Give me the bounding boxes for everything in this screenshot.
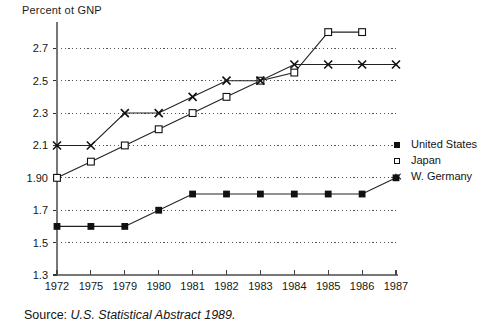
series-line-japan (57, 32, 362, 178)
y-axis-tick-label: 2.1 (33, 139, 48, 151)
series-line-w-germany (57, 64, 396, 145)
legend-item-w-germany: W. Germany (394, 168, 477, 184)
x-axis-tick-label: 1985 (316, 280, 340, 292)
legend-item-united-states: United States (394, 136, 477, 152)
x-axis-tick-label: 1981 (180, 280, 204, 292)
open-square-marker-icon (394, 152, 407, 168)
data-point-x (189, 93, 197, 101)
legend-label-united-states: United States (411, 136, 477, 152)
legend-label-japan: Japan (411, 152, 441, 168)
data-point-filled-square (88, 223, 95, 230)
data-point-filled-square (257, 191, 264, 198)
data-point-open-square (121, 142, 128, 149)
data-point-open-square (291, 69, 298, 76)
source-citation: U.S. Statistical Abstract 1989. (71, 308, 236, 322)
x-axis-tick-label: 1980 (146, 280, 170, 292)
legend-label-w-germany: W. Germany (411, 168, 472, 184)
data-point-open-square (359, 29, 366, 36)
data-point-filled-square (291, 191, 298, 198)
data-point-filled-square (223, 191, 230, 198)
y-axis-tick-label: 1.7 (33, 204, 48, 216)
x-axis-tick-label: 1984 (282, 280, 306, 292)
y-axis-tick-label: 2.7 (33, 42, 48, 54)
x-axis-tick-label: 1982 (214, 280, 238, 292)
x-axis-tick-label: 1986 (350, 280, 374, 292)
chart-legend: United States Japan W. Germany (394, 136, 477, 184)
data-point-filled-square (121, 223, 128, 230)
data-point-filled-square (359, 191, 366, 198)
data-point-filled-square (54, 223, 61, 230)
data-point-open-square (189, 110, 196, 117)
x-axis-tick-label: 1975 (79, 280, 103, 292)
filled-square-marker-icon (394, 136, 407, 152)
data-point-open-square (223, 93, 230, 100)
data-point-filled-square (189, 191, 196, 198)
y-axis-tick-label: 2.5 (33, 75, 48, 87)
y-axis-tick-label: 1.5 (33, 237, 48, 249)
data-point-open-square (155, 126, 162, 133)
data-point-filled-square (155, 207, 162, 214)
y-axis-tick-label: 2.3 (33, 107, 48, 119)
data-point-open-square (325, 29, 332, 36)
source-note: Source: U.S. Statistical Abstract 1989. (24, 308, 235, 322)
y-axis-tick-label: 1.90 (27, 172, 48, 184)
x-marker-icon (394, 168, 407, 184)
data-point-filled-square (325, 191, 332, 198)
x-axis-tick-label: 1983 (248, 280, 272, 292)
chart-figure: Percent ot GNP 1.31.51.71.902.12.32.52.7… (0, 0, 480, 328)
x-axis-tick-label: 1987 (384, 280, 408, 292)
legend-item-japan: Japan (394, 152, 477, 168)
series-line-united-states (57, 178, 396, 227)
x-axis-tick-label: 1979 (113, 280, 137, 292)
data-point-open-square (88, 158, 95, 165)
x-axis-tick-label: 1972 (45, 280, 69, 292)
source-prefix: Source: (24, 308, 67, 322)
data-point-open-square (54, 174, 61, 181)
